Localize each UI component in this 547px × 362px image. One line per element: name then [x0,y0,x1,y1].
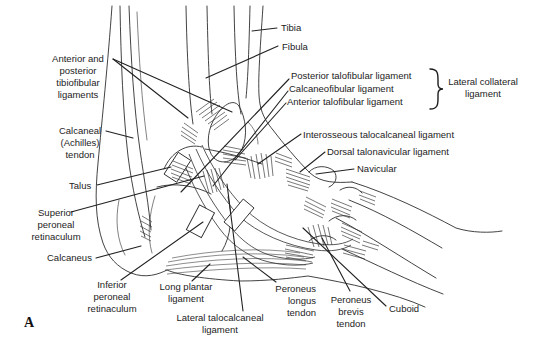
label-calcaneus: Calcaneus [47,252,92,264]
label-lateral-talocalcaneal-ligament: Lateral talocalcaneal ligament [166,312,274,336]
label-anterior-posterior-tibiofibular-ligaments: Anterior and posterior tibiofibular liga… [40,53,116,101]
label-navicular: Navicular [357,163,397,175]
label-inferior-peroneal-retinaculum: Inferior peroneal retinaculum [72,279,152,315]
label-peroneus-longus-tendon: Peroneus longus tendon [268,283,316,319]
ligament-hatching [140,99,379,274]
label-calcaneofibular-ligament: Calcaneofibular ligament [289,83,394,95]
label-long-plantar-ligament: Long plantar ligament [150,281,222,305]
label-peroneus-brevis-tendon: Peroneus brevis tendon [327,294,375,330]
anatomy-figure-ankle-lateral: Tibia Fibula Anterior and posterior tibi… [0,0,547,362]
label-anterior-talofibular-ligament: Anterior talofibular ligament [287,96,403,108]
label-calcaneal-achilles-tendon: Calcaneal (Achilles) tendon [44,125,116,161]
label-talus: Talus [69,180,91,192]
label-interosseous-talocalcaneal-ligament: Interosseous talocalcaneal ligament [303,129,454,141]
label-lateral-collateral-ligament: Lateral collateral ligament [441,76,525,100]
label-cuboid: Cuboid [389,303,419,315]
panel-label: A [24,317,34,329]
label-posterior-talofibular-ligament: Posterior talofibular ligament [291,70,411,82]
label-tibia: Tibia [281,22,301,34]
label-dorsal-talonavicular-ligament: Dorsal talonavicular ligament [327,146,449,158]
label-fibula: Fibula [282,41,308,53]
label-superior-peroneal-retinaculum: Superior peroneal retinaculum [16,207,96,243]
retinaculum-straps [164,152,254,237]
